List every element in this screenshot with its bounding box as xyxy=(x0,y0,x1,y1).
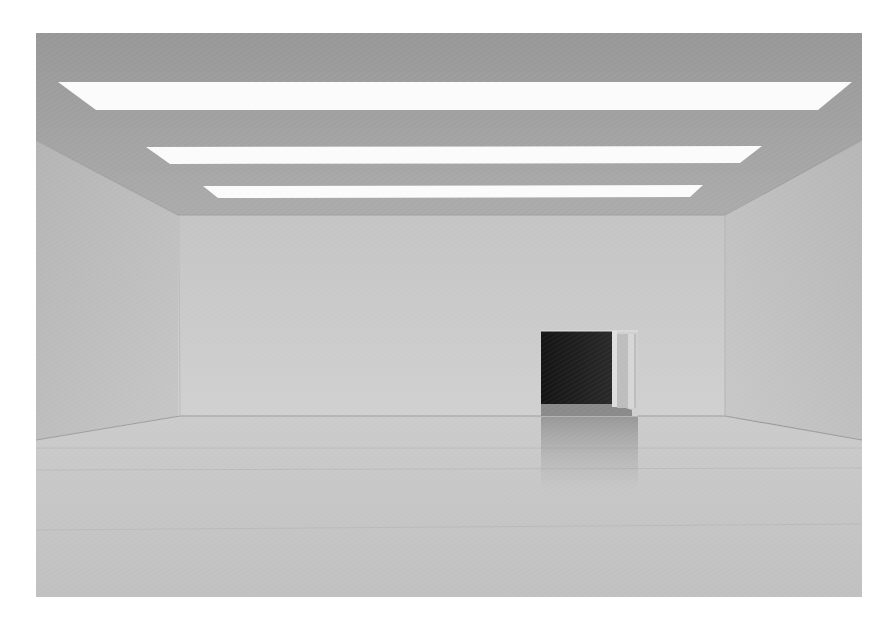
room-scene xyxy=(36,33,862,597)
texture-overlay xyxy=(36,33,862,597)
gallery-photo: Empty white gallery room xyxy=(36,33,862,597)
